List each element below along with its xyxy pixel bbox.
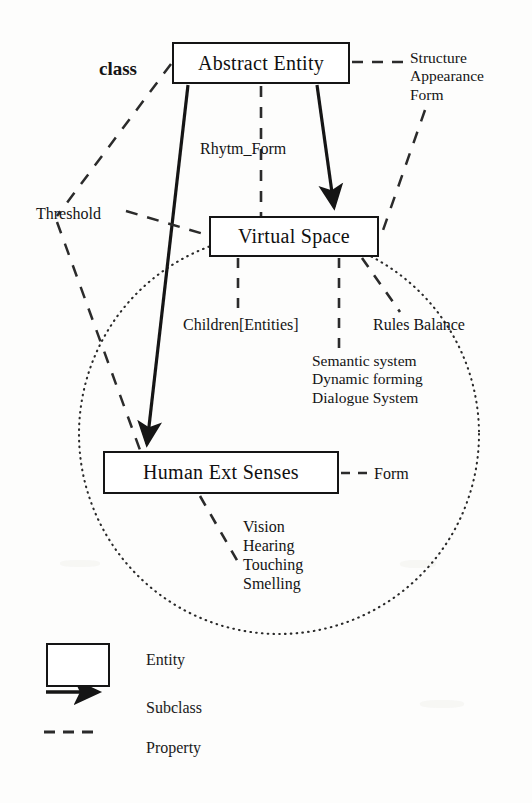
legend-label-property: Property	[146, 739, 201, 757]
legend-label-subclass: Subclass	[146, 699, 202, 717]
subclass-arrow-abstract-to-human	[147, 85, 188, 444]
property-line-rules-balance	[362, 258, 400, 312]
legend-rectangle-glyph	[46, 643, 110, 687]
legend: Entity Subclass Property	[41, 643, 291, 773]
label-threshold: Threshold	[36, 205, 101, 224]
entity-box-virtual-space[interactable]: Virtual Space	[209, 216, 379, 257]
property-line-senses	[200, 496, 238, 562]
label-children-entities: Children[Entities]	[183, 316, 299, 335]
legend-item-subclass: Subclass	[41, 691, 291, 725]
label-class: class	[99, 58, 137, 80]
property-line-threshold	[126, 211, 207, 235]
entity-label-abstract-entity: Abstract Entity	[198, 52, 324, 75]
subclass-arrow-abstract-to-virtual	[317, 85, 334, 207]
entity-label-virtual-space: Virtual Space	[238, 225, 350, 248]
property-line-threshold-branch	[57, 222, 140, 450]
label-semantic-system-group: Semantic system Dynamic forming Dialogue…	[312, 352, 423, 407]
entity-label-human-ext-senses: Human Ext Senses	[143, 461, 299, 484]
property-line-class	[57, 64, 171, 216]
label-senses-group: Vision Hearing Touching Smelling	[243, 518, 303, 594]
diagram-canvas: Abstract Entity Virtual Space Human Ext …	[0, 0, 532, 803]
entity-box-human-ext-senses[interactable]: Human Ext Senses	[103, 451, 339, 494]
label-form: Form	[374, 465, 409, 484]
entity-box-abstract-entity[interactable]: Abstract Entity	[172, 42, 350, 84]
label-structure-appearance-form: Structure Appearance Form	[410, 49, 484, 104]
legend-item-property: Property	[41, 731, 291, 765]
label-rhytm-form: Rhytm_Form	[200, 140, 286, 159]
legend-label-entity: Entity	[146, 651, 185, 669]
legend-item-entity: Entity	[41, 643, 291, 677]
property-line-appearance-diagonal	[381, 110, 425, 236]
label-rules-balance: Rules Balance	[373, 316, 465, 335]
